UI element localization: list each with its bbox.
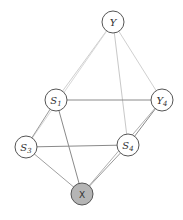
node-s4: S4 [117, 134, 139, 156]
node-s1: S1 [45, 89, 67, 111]
edges-layer [26, 22, 162, 194]
edge-y-s4 [113, 22, 128, 145]
edge-s3-s4 [26, 145, 128, 147]
node-y: Y [102, 11, 124, 33]
node-y4: Y4 [151, 89, 173, 111]
graph-diagram: YS1Y4S3S4X [0, 0, 183, 220]
node-label: X [79, 190, 85, 200]
edge-y-y4 [113, 22, 162, 100]
node-x: X [71, 183, 93, 205]
edge-y-s3 [26, 22, 113, 147]
nodes-layer: YS1Y4S3S4X [15, 11, 173, 205]
edge-s1-x [56, 100, 82, 194]
node-s3: S3 [15, 136, 37, 158]
